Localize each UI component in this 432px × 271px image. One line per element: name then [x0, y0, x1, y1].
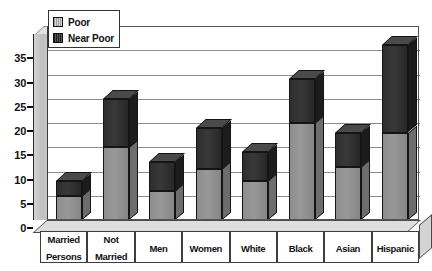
category-label-hispanic: Hispanic: [372, 231, 419, 263]
legend-item-near-poor: Near Poor: [53, 30, 115, 46]
category-label-line: Black: [289, 243, 313, 254]
bar-men: [149, 162, 175, 220]
bar-asian: [335, 133, 361, 220]
x-axis-category-labels: MarriedPersonsNotMarriedMenWomenWhiteBla…: [40, 231, 419, 263]
bar-segment-near-poor: [242, 152, 268, 181]
bar-side-poor: [222, 162, 231, 220]
y-tick-label: 0: [20, 222, 26, 234]
category-label-line: Asian: [336, 243, 360, 254]
y-tick-label: 25: [14, 101, 26, 113]
category-label-line: Married: [95, 251, 127, 262]
bar-white: [242, 152, 268, 220]
bar-side-poor: [361, 159, 370, 220]
bar-side-near-poor: [129, 91, 138, 147]
bar-hispanic: [382, 45, 408, 220]
legend-label-near-poor: Near Poor: [68, 33, 114, 44]
bar-segment-near-poor: [289, 79, 315, 123]
category-label-line: White: [241, 243, 265, 254]
bar-segment-poor: [56, 196, 82, 220]
bar-side-near-poor: [315, 72, 324, 123]
legend-label-poor: Poor: [68, 17, 90, 28]
y-tick-mark: [27, 130, 33, 132]
bar-segment-poor: [103, 147, 129, 220]
bar-segment-poor: [242, 181, 268, 220]
near-poor-swatch-icon: [53, 33, 63, 43]
bar-segment-poor: [149, 191, 175, 220]
bar-side-near-poor: [222, 120, 231, 169]
bar-segment-near-poor: [103, 99, 129, 148]
y-tick-label: 20: [14, 125, 26, 137]
x-axis-label-cap: [419, 214, 432, 259]
plot-area: [47, 26, 420, 220]
category-label-white: White: [230, 231, 277, 263]
gridline: [48, 75, 420, 76]
y-tick-label: 30: [14, 77, 26, 89]
bar-side-poor: [408, 125, 417, 220]
legend: Poor Near Poor: [48, 10, 120, 48]
category-label-married-persons: MarriedPersons: [40, 231, 87, 263]
y-tick-mark: [27, 57, 33, 59]
poor-swatch-icon: [53, 17, 63, 27]
category-label-not-married: NotMarried: [87, 231, 134, 263]
y-tick-label: 5: [20, 198, 26, 210]
category-label-asian: Asian: [324, 231, 371, 263]
y-tick-mark: [27, 203, 33, 205]
bar-women: [196, 128, 222, 220]
category-label-line: Men: [149, 243, 167, 254]
category-label-line: Women: [189, 243, 222, 254]
y-tick-mark: [27, 82, 33, 84]
y-tick-label: 15: [14, 149, 26, 161]
bar-segment-poor: [289, 123, 315, 220]
category-label-line: Hispanic: [377, 243, 414, 254]
category-label-line: Persons: [46, 251, 81, 262]
bar-segment-near-poor: [335, 133, 361, 167]
category-label-line: Not: [104, 234, 119, 245]
category-label-line: Married: [48, 234, 80, 245]
bar-segment-poor: [335, 167, 361, 220]
category-label-black: Black: [277, 231, 324, 263]
y-tick-mark: [27, 154, 33, 156]
legend-item-poor: Poor: [53, 14, 115, 30]
bar-segment-near-poor: [56, 181, 82, 196]
y-tick-label: 10: [14, 174, 26, 186]
bar-side-poor: [268, 174, 277, 220]
bar-side-near-poor: [408, 38, 417, 133]
y-tick-mark: [27, 227, 33, 229]
bar-segment-poor: [196, 169, 222, 220]
y-tick-label: 35: [14, 52, 26, 64]
bar-segment-near-poor: [196, 128, 222, 169]
bar-side-poor: [315, 115, 324, 220]
category-label-men: Men: [135, 231, 182, 263]
gridline: [48, 50, 420, 51]
bar-side-poor: [129, 140, 138, 220]
y-tick-mark: [27, 106, 33, 108]
category-label-women: Women: [182, 231, 229, 263]
bar-segment-near-poor: [382, 45, 408, 132]
y-tick-mark: [27, 179, 33, 181]
bar-married-persons: [56, 181, 82, 220]
bar-segment-near-poor: [149, 162, 175, 191]
bar-segment-poor: [382, 133, 408, 220]
bar-black: [289, 79, 315, 220]
bar-not-married: [103, 99, 129, 220]
